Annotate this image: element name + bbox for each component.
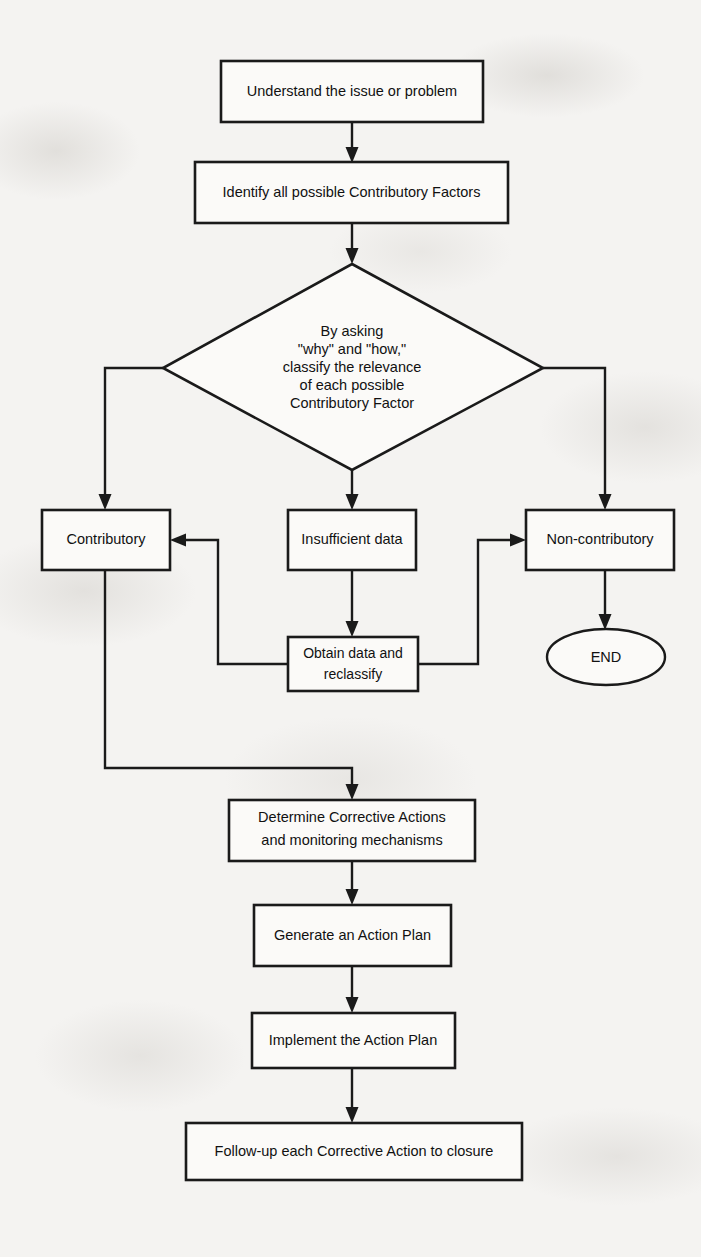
node-label: Identify all possible Contributory Facto…: [223, 184, 481, 200]
arrowhead-icon: [599, 614, 612, 630]
arrowhead-icon: [510, 534, 526, 547]
edge-classify-to-contributory: [99, 368, 164, 510]
node-determine-corrective-actions[interactable]: Determine Corrective Actions and monitor…: [229, 800, 475, 861]
arrowhead-icon: [346, 147, 359, 163]
node-label-line-1: By asking: [321, 323, 384, 339]
node-generate-action-plan[interactable]: Generate an Action Plan: [254, 905, 451, 966]
node-label: Non-contributory: [546, 531, 654, 547]
arrowhead-icon: [346, 784, 359, 800]
node-classify-relevance-decision[interactable]: By asking "why" and "how," classify the …: [163, 264, 543, 470]
edge-obtain-to-contributory: [170, 534, 288, 665]
node-obtain-data-and-reclassify[interactable]: Obtain data and reclassify: [288, 637, 418, 691]
node-label-line-1: Obtain data and: [303, 645, 403, 661]
arrowhead-icon: [599, 494, 612, 510]
flowchart-page: Understand the issue or problem Identify…: [0, 0, 701, 1257]
node-label-line-2: reclassify: [324, 666, 382, 682]
arrowhead-icon: [170, 534, 186, 547]
arrowhead-icon: [346, 494, 359, 510]
node-label: Implement the Action Plan: [269, 1032, 437, 1048]
edge-classify-to-insufficient: [346, 470, 359, 510]
node-non-contributory[interactable]: Non-contributory: [526, 510, 674, 570]
arrowhead-icon: [346, 1107, 359, 1123]
flowchart-canvas: Understand the issue or problem Identify…: [0, 0, 701, 1257]
edge-classify-to-noncontributory: [543, 368, 612, 510]
edge-determine-to-generate: [346, 861, 359, 905]
node-contributory[interactable]: Contributory: [42, 510, 170, 570]
edge-insufficient-to-obtain: [346, 570, 359, 637]
node-end-terminator[interactable]: END: [547, 629, 665, 685]
node-label-line-2: and monitoring mechanisms: [261, 832, 442, 848]
node-layer: Understand the issue or problem Identify…: [42, 61, 674, 1180]
node-label-line-1: Determine Corrective Actions: [258, 809, 446, 825]
node-label: Insufficient data: [301, 531, 403, 547]
node-label: Understand the issue or problem: [247, 83, 457, 99]
edge-understand-to-identify: [346, 122, 359, 163]
node-label: END: [591, 649, 622, 665]
edge-generate-to-implement: [346, 966, 359, 1013]
node-label: Contributory: [67, 531, 147, 547]
node-label-line-3: classify the relevance: [283, 359, 422, 375]
node-label: Generate an Action Plan: [274, 927, 431, 943]
node-identify-contributory-factors[interactable]: Identify all possible Contributory Facto…: [195, 162, 508, 223]
edge-identify-to-classify: [346, 223, 359, 264]
node-implement-action-plan[interactable]: Implement the Action Plan: [252, 1013, 455, 1068]
arrowhead-icon: [346, 621, 359, 637]
node-label-line-5: Contributory Factor: [290, 395, 414, 411]
edge-noncontributory-to-end: [599, 570, 612, 630]
arrowhead-icon: [346, 997, 359, 1013]
node-label-line-4: of each possible: [300, 377, 405, 393]
node-label: Follow-up each Corrective Action to clos…: [215, 1143, 494, 1159]
arrowhead-icon: [99, 494, 112, 510]
edge-implement-to-followup: [346, 1068, 359, 1123]
arrowhead-icon: [346, 248, 359, 264]
arrowhead-icon: [346, 889, 359, 905]
edge-obtain-to-noncontributory: [418, 534, 526, 665]
node-understand-the-issue[interactable]: Understand the issue or problem: [221, 61, 483, 122]
node-insufficient-data[interactable]: Insufficient data: [288, 510, 416, 570]
node-follow-up-corrective-action[interactable]: Follow-up each Corrective Action to clos…: [186, 1123, 522, 1180]
node-label-line-2: "why" and "how,": [298, 341, 406, 357]
